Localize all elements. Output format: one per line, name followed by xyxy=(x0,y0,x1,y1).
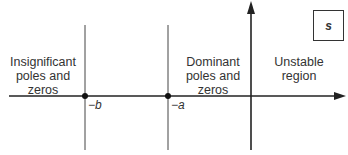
region-line: poles and xyxy=(180,69,246,83)
region-line: region xyxy=(266,69,332,83)
marker-minus-a-label: −a xyxy=(171,98,185,112)
marker-minus-b-label: −b xyxy=(88,98,102,112)
region-line: Insignificant xyxy=(8,55,78,69)
region-line: zeros xyxy=(180,83,246,97)
region-dominant-label: Dominant poles and zeros xyxy=(180,55,246,97)
region-unstable-label: Unstable region xyxy=(266,55,332,83)
imag-axis-arrow-icon xyxy=(247,1,255,14)
region-line: Unstable xyxy=(266,55,332,69)
region-insignificant-label: Insignificant poles and zeros xyxy=(8,55,78,97)
region-line: Dominant xyxy=(180,55,246,69)
real-axis-arrow-icon xyxy=(334,92,346,100)
region-line: zeros xyxy=(8,83,78,97)
s-plane-label: s xyxy=(325,19,332,33)
s-plane-label-box: s xyxy=(313,10,344,41)
region-line: poles and xyxy=(8,69,78,83)
